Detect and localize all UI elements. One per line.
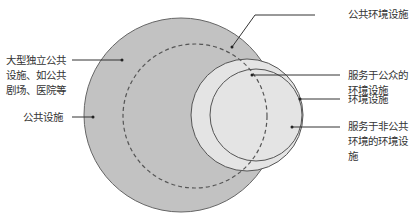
label-public-facilities: 公共设施: [23, 110, 63, 125]
label-public-environment-facilities: 公共环境设施: [348, 7, 408, 22]
label-environment-serving-nonpublic: 服务于非公共 环境的环境设 施: [348, 119, 408, 164]
label-environment-facilities: 环境设施: [348, 92, 388, 107]
public-serving-environment-circle: [191, 59, 303, 171]
label-large-public-facilities: 大型独立公共 设施、如公共 剧场、医院等: [6, 53, 66, 98]
